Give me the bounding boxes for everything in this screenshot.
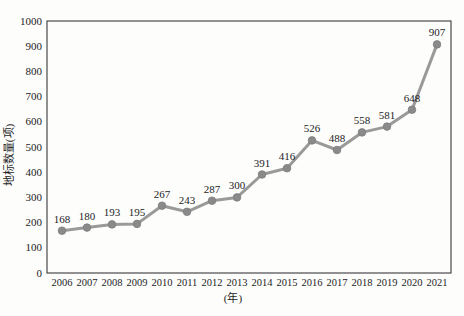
line-chart: 0100200300400500600700800900100020062007… [0,0,464,316]
y-tick-label: 700 [26,90,43,102]
data-point-label: 300 [229,179,246,191]
data-point-label: 416 [279,150,296,162]
trend-line [62,44,437,230]
x-tick-label: 2007 [77,277,98,288]
y-tick-label: 800 [26,65,43,77]
data-point-marker [83,224,91,232]
data-point-label: 558 [354,114,371,126]
data-point-marker [433,41,441,49]
data-point-label: 180 [79,210,96,222]
data-point-label: 581 [379,109,396,121]
x-tick-label: 2006 [52,277,73,288]
data-point-marker [133,220,141,228]
y-tick-label: 200 [26,216,43,228]
y-tick-label: 400 [26,166,43,178]
x-tick-label: 2012 [202,277,223,288]
x-tick-label: 2021 [427,277,448,288]
y-axis-title: 地标数量(项) [2,124,16,187]
data-point-marker [283,164,291,172]
y-tick-label: 300 [26,191,43,203]
data-point-label: 648 [404,92,421,104]
x-tick-label: 2018 [352,277,373,288]
y-tick-label: 100 [26,241,43,253]
x-tick-label: 2019 [377,277,398,288]
x-tick-label: 2020 [402,277,423,288]
data-point-marker [408,106,416,114]
data-point-marker [233,194,241,202]
data-point-label: 488 [329,132,346,144]
data-point-marker [183,208,191,216]
data-point-label: 168 [54,213,71,225]
data-point-marker [158,202,166,210]
y-tick-label: 600 [26,115,43,127]
x-tick-label: 2014 [252,277,274,288]
y-tick-label: 0 [37,267,43,279]
y-tick-label: 500 [26,141,43,153]
data-point-marker [383,123,391,131]
data-point-label: 907 [429,26,446,38]
x-tick-label: 2013 [227,277,248,288]
data-point-marker [208,197,216,205]
data-point-marker [358,129,366,137]
x-tick-label: 2017 [327,277,348,288]
data-point-label: 193 [104,206,121,218]
x-tick-label: 2008 [102,277,123,288]
x-axis-title: (年) [224,291,243,305]
data-point-marker [108,221,116,229]
data-point-label: 267 [154,188,171,200]
data-point-marker [258,171,266,179]
data-point-label: 195 [129,206,146,218]
x-tick-label: 2010 [152,277,173,288]
y-tick-label: 1000 [20,15,43,27]
x-tick-label: 2009 [127,277,148,288]
data-point-marker [58,227,66,235]
data-point-label: 287 [204,183,221,195]
line-chart-figure: 0100200300400500600700800900100020062007… [0,0,464,316]
data-point-label: 243 [179,194,196,206]
plot-border [47,21,451,273]
data-point-marker [308,137,316,145]
data-point-marker [333,146,341,154]
x-tick-label: 2015 [277,277,298,288]
x-tick-label: 2011 [177,277,198,288]
data-point-label: 391 [254,157,271,169]
x-tick-label: 2016 [302,277,323,288]
y-tick-label: 900 [26,40,43,52]
data-point-label: 526 [304,122,321,134]
